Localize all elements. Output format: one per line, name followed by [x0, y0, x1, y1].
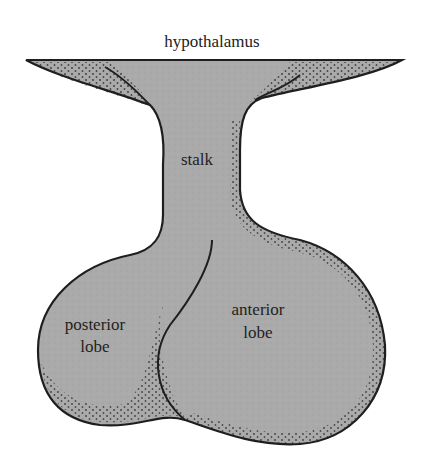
label-stalk: stalk: [181, 150, 214, 169]
label-posterior-lobe: lobe: [80, 337, 109, 356]
gland-body: [26, 60, 402, 444]
label-anterior: anterior: [232, 300, 285, 319]
label-anterior-lobe: lobe: [243, 323, 272, 342]
pituitary-diagram: hypothalamus stalk posterior lobe anteri…: [0, 0, 424, 464]
label-posterior: posterior: [65, 315, 126, 334]
label-hypothalamus: hypothalamus: [164, 32, 259, 51]
